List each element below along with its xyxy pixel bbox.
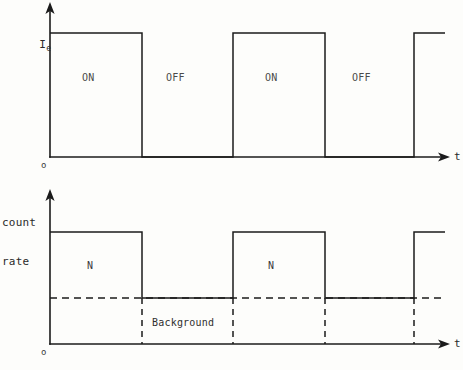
lower-x-axis-label: t — [454, 338, 461, 351]
background-label: Background — [152, 317, 214, 329]
upper-y-axis-tick-subscript: e — [46, 44, 51, 53]
upper-origin-label: o — [41, 160, 47, 170]
upper-state-label-on-2: ON — [265, 72, 277, 84]
upper-panel — [45, 2, 450, 162]
lower-y-axis-label-line1: count — [2, 216, 36, 229]
timing-diagram-svg — [0, 0, 463, 370]
figure-canvas: Ie o t ON OFF ON OFF count rate o t N N … — [0, 0, 463, 370]
lower-y-axis-label: count rate — [2, 190, 36, 294]
upper-x-axis-label: t — [454, 151, 461, 164]
lower-y-axis-label-line2: rate — [2, 255, 36, 268]
upper-state-label-off-2: OFF — [352, 72, 371, 84]
lower-signal-label-1: N — [87, 260, 93, 272]
upper-waveform — [50, 33, 445, 157]
lower-signal-label-2: N — [268, 260, 274, 272]
lower-panel — [45, 189, 450, 349]
upper-state-label-on-1: ON — [82, 72, 94, 84]
upper-y-axis-tick-label: Ie — [12, 26, 51, 66]
lower-waveform — [50, 232, 445, 298]
upper-state-label-off-1: OFF — [166, 72, 185, 84]
lower-origin-label: o — [41, 347, 47, 357]
